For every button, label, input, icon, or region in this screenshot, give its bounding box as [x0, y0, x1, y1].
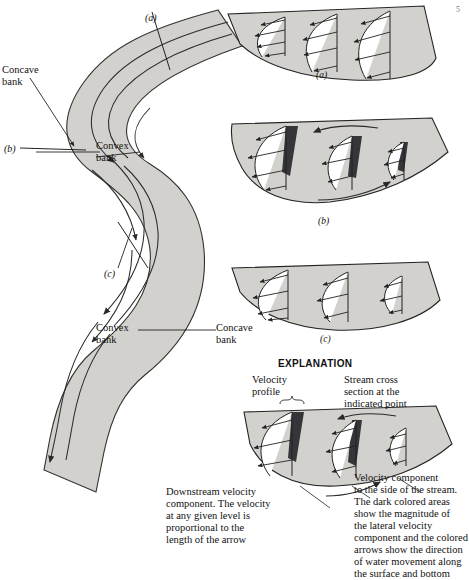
cross-section-a: (a) — [228, 6, 436, 81]
meander-channel — [20, 10, 242, 492]
cross-section-b: (b) — [231, 118, 448, 227]
downstream-velocity-note: Downstream velocity component. The veloc… — [166, 486, 271, 546]
page-mark: 5 — [456, 5, 460, 14]
stream-cross-section-label: Stream cross section at the indicated po… — [344, 374, 407, 410]
section-a-caption: (a) — [316, 70, 327, 81]
bank-label-convex-upper: Convex bank — [96, 140, 129, 164]
explanation-heading: EXPLANATION — [278, 358, 352, 369]
velocity-profile-label: Velocity profile — [252, 374, 287, 398]
leader-downstream-note — [300, 486, 330, 508]
leader-c — [118, 228, 132, 268]
lateral-velocity-note: Velocity component to the side of the st… — [354, 472, 468, 580]
cross-section-c: (c) — [232, 262, 440, 345]
bank-label-concave-lower: Concave bank — [216, 322, 253, 346]
section-marker-b-label: (b) — [4, 143, 16, 154]
section-marker-c-label: (c) — [104, 268, 115, 279]
section-c-caption: (c) — [320, 334, 331, 345]
bank-label-concave-upper: Concave bank — [2, 64, 39, 88]
section-marker-a-label: (a) — [145, 12, 157, 23]
section-b-caption: (b) — [318, 216, 329, 227]
bank-label-convex-lower: Convex bank — [96, 322, 129, 346]
leader-concave-upper — [30, 78, 74, 146]
